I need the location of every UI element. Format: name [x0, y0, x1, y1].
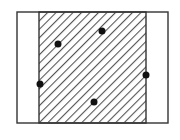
- data-point: [143, 72, 150, 79]
- data-point: [37, 81, 44, 88]
- data-point: [99, 28, 106, 35]
- data-point: [91, 99, 98, 106]
- data-point: [55, 41, 62, 48]
- diagram-canvas: [0, 0, 180, 140]
- hatched-region: [39, 12, 146, 123]
